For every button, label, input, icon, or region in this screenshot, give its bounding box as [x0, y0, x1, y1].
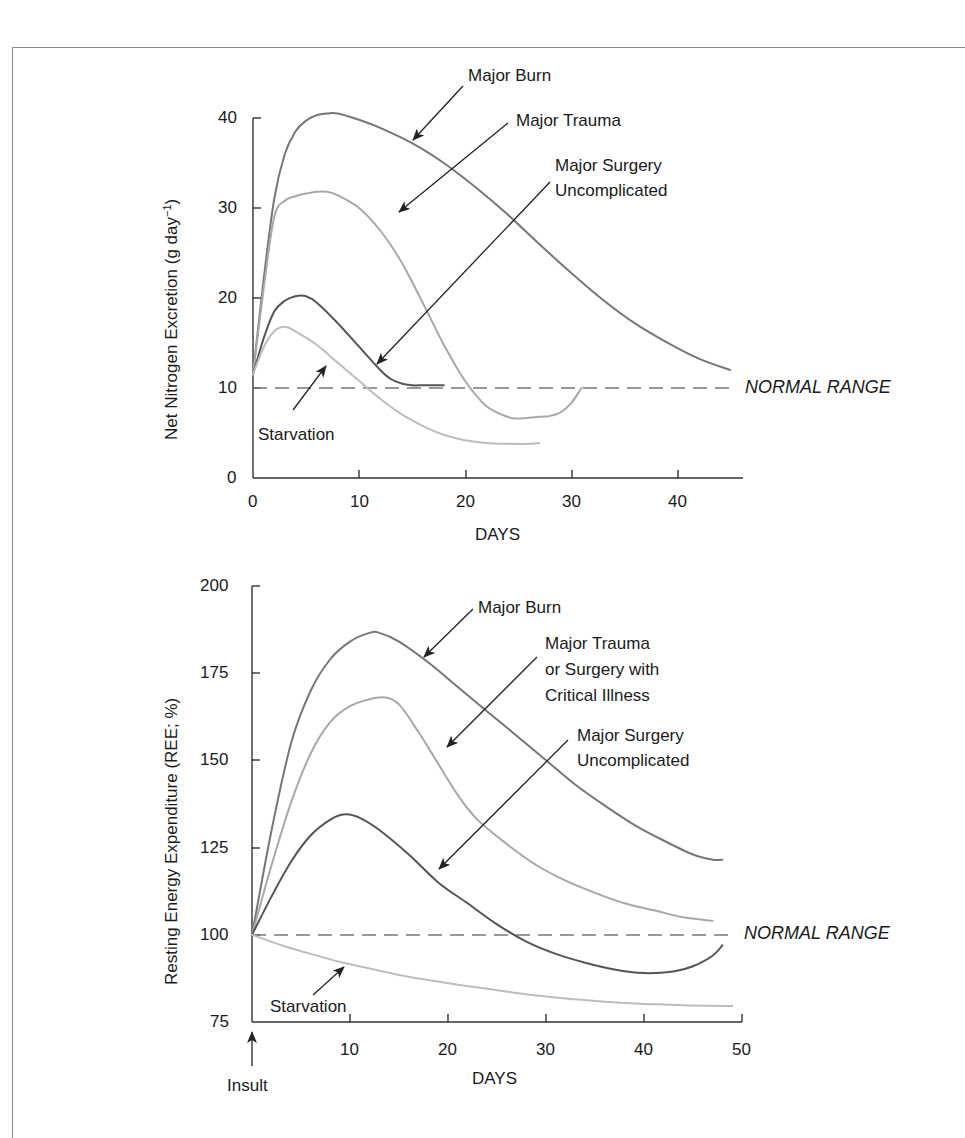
top-x-tick: 30: [562, 492, 581, 512]
top-annotation-arrows: [293, 86, 550, 410]
top-y-tick: 20: [218, 288, 237, 308]
top-label-major-burn: Major Burn: [468, 65, 551, 86]
arrow-icon: [413, 86, 463, 140]
bottom-normal-range-label: NORMAL RANGE: [744, 923, 890, 944]
bottom-x-tick: 50: [732, 1040, 751, 1060]
series-line-major-surgery-uncomplicated: [252, 814, 722, 973]
top-y-tick: 40: [218, 108, 237, 128]
top-x-tick: 10: [350, 492, 369, 512]
bottom-label-trauma-line2: or Surgery with: [545, 659, 659, 680]
arrow-icon: [447, 657, 537, 747]
figure-canvas: [0, 0, 965, 1138]
top-label-surgery-line2: Uncomplicated: [555, 180, 667, 201]
bottom-x-tick: 20: [438, 1040, 457, 1060]
top-y-tick: 0: [227, 468, 236, 488]
top-x-tick: 40: [668, 492, 687, 512]
top-label-starvation: Starvation: [258, 424, 335, 445]
bottom-y-axis-label: Resting Energy Expenditure (REE; %): [162, 698, 182, 985]
bottom-label-surgery-line2: Uncomplicated: [577, 750, 689, 771]
top-y-tick: 10: [218, 378, 237, 398]
bottom-x-tick: 40: [634, 1040, 653, 1060]
arrow-icon: [424, 609, 473, 657]
bottom-y-tick: 200: [200, 576, 228, 596]
top-y-tick: 30: [218, 198, 237, 218]
bottom-label-surgery-line1: Major Surgery: [577, 725, 684, 746]
bottom-label-trauma-line1: Major Trauma: [545, 633, 650, 654]
top-label-major-trauma: Major Trauma: [516, 110, 621, 131]
bottom-y-tick: 125: [200, 838, 228, 858]
bottom-x-tick: 30: [536, 1040, 555, 1060]
bottom-x-tick: 10: [340, 1040, 359, 1060]
bottom-x-axis-label: DAYS: [472, 1068, 517, 1089]
bottom-y-tick: 75: [210, 1012, 229, 1032]
arrow-icon: [313, 967, 344, 995]
bottom-y-tick: 100: [200, 925, 228, 945]
bottom-series-group: [252, 632, 732, 1006]
top-x-tick: 20: [456, 492, 475, 512]
bottom-label-major-burn: Major Burn: [478, 597, 561, 618]
arrow-icon: [439, 740, 568, 869]
bottom-chart-axes: [252, 586, 742, 1022]
top-x-tick: 0: [248, 492, 257, 512]
top-y-axis-label: Net Nitrogen Excretion (g day−1): [162, 199, 182, 440]
top-x-axis-label: DAYS: [475, 524, 520, 545]
bottom-label-starvation: Starvation: [270, 996, 347, 1017]
bottom-y-tick: 175: [200, 663, 228, 683]
bottom-y-tick: 150: [200, 750, 228, 770]
top-label-surgery-line1: Major Surgery: [555, 155, 662, 176]
insult-label: Insult: [227, 1075, 268, 1096]
arrow-icon: [399, 123, 508, 212]
bottom-label-trauma-line3: Critical Illness: [545, 685, 650, 706]
top-normal-range-label: NORMAL RANGE: [745, 377, 891, 398]
